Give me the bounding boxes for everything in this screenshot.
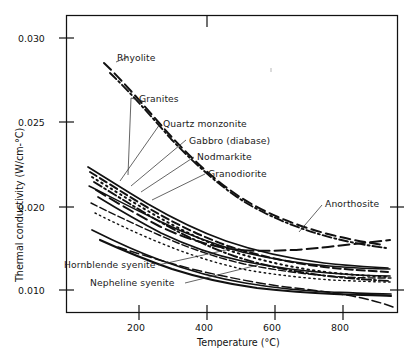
leader-quartz-monzonite [120,124,160,181]
series-label-nepheline-syenite: Nepheline syenite [90,278,175,287]
leader-gabbro [131,140,186,186]
leader-granodiorite [152,174,205,200]
y-tick-label-0010: 0.010 [18,285,45,296]
x-tick-label-400: 400 [195,322,213,333]
series-label-anorthosite: Anorthosite [325,199,379,208]
x-tick-label-800: 800 [331,322,349,333]
scan-artifact [270,68,272,72]
y-tick-label-0030: 0.030 [18,33,45,44]
series-label-rhyolite: Rhyolite [117,53,155,62]
series-label-gabbro: Gabbro (diabase) [189,136,270,145]
series-label-granodiorite: Granodiorite [208,169,267,178]
data-curves [88,63,393,307]
series-label-hornblende-syenite: Hornblende syenite [64,260,156,269]
leader-nodmarkite [141,157,194,192]
x-tick-label-200: 200 [127,322,145,333]
y-axis-title: Thermal conductivity (W/cm-°C) [14,128,25,282]
leader-granites [128,98,131,175]
leader-anorthosite [299,205,322,232]
thermal-conductivity-chart: 0.030 0.025 0.020 0.010 200 400 600 800 … [0,0,409,354]
curve-gabbro [90,172,388,272]
y-tick-label-0025: 0.025 [18,117,45,128]
series-label-quartz-monzonite: Quartz monzonite [163,119,247,128]
x-tick-label-600: 600 [263,322,281,333]
series-label-granites: Granites [139,94,179,103]
x-axis-title: Temperature (°C) [197,337,280,348]
series-label-nodmarkite: Nodmarkite [197,152,252,161]
curve-bundle-c [95,213,391,282]
chart-canvas [0,0,409,354]
